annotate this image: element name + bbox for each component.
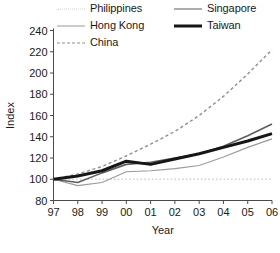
y-tick-label-240: 240 xyxy=(29,25,47,37)
x-tick-label-01: 01 xyxy=(144,206,156,218)
line-chart: Philippines Singapore Hong Kong Taiwan C… xyxy=(0,0,280,253)
x-tick-label-06: 06 xyxy=(266,206,278,218)
x-tick-label-02: 02 xyxy=(169,206,181,218)
y-tick-label-100: 100 xyxy=(29,173,47,185)
x-tick-label-97: 97 xyxy=(47,206,59,218)
y-tick-label-80: 80 xyxy=(35,195,47,207)
x-tick-label-98: 98 xyxy=(72,206,84,218)
y-tick-label-200: 200 xyxy=(29,67,47,79)
y-tick-label-220: 220 xyxy=(29,46,47,58)
y-axis-title: Index xyxy=(4,102,16,129)
plot-svg: 80100120140160180200220240 9798990001020… xyxy=(0,0,280,253)
x-tick-label-99: 99 xyxy=(96,206,108,218)
series-line-taiwan xyxy=(54,134,273,180)
y-tick-label-180: 180 xyxy=(29,88,47,100)
y-tick-label-120: 120 xyxy=(29,152,47,164)
x-tick-label-05: 05 xyxy=(242,206,254,218)
y-tick-label-160: 160 xyxy=(29,110,47,122)
y-tick-label-140: 140 xyxy=(29,131,47,143)
x-axis-title: Year xyxy=(152,224,175,236)
x-axis: 97989900010203040506 xyxy=(47,201,278,218)
x-tick-label-04: 04 xyxy=(217,206,229,218)
series-layer xyxy=(54,50,273,186)
x-tick-label-00: 00 xyxy=(120,206,132,218)
x-tick-label-03: 03 xyxy=(193,206,205,218)
y-axis: 80100120140160180200220240 xyxy=(29,25,53,207)
plot-area: 80100120140160180200220240 9798990001020… xyxy=(0,0,280,253)
